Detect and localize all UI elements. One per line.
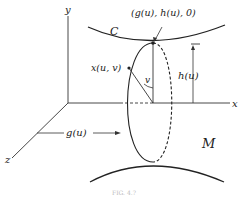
height-label: h(u) (178, 70, 199, 81)
z-axis-label: z (4, 154, 11, 165)
figure-caption: FIG. 4.? (112, 189, 136, 196)
curve-point (151, 41, 155, 45)
surface-bottom-curve (90, 166, 224, 182)
angle-label: v (145, 75, 150, 85)
surface-label: M (201, 136, 216, 151)
point-label: (g(u), h(u), 0) (131, 7, 196, 18)
circle-front (127, 43, 153, 162)
curve-label: C (110, 25, 119, 38)
surface-point (127, 66, 130, 69)
distance-arrowhead-icon (115, 131, 121, 135)
distance-label: g(u) (66, 127, 87, 138)
surface-point-label: x(u, v) (91, 62, 122, 73)
circle-back (153, 43, 172, 162)
surface-of-revolution-diagram: y x z C M (g(u), h(u), 0) x(u, v) v h(u)… (0, 0, 240, 197)
radius-to-point (129, 68, 153, 103)
height-arrowhead-icon (191, 45, 195, 50)
y-axis-label: y (64, 4, 71, 15)
z-axis (12, 103, 68, 158)
x-axis-label: x (232, 98, 238, 109)
